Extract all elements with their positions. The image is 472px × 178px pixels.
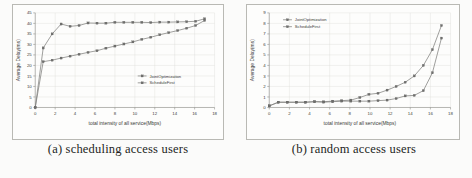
svg-text:6: 6 — [328, 111, 331, 116]
svg-text:JointOptimization: JointOptimization — [150, 74, 182, 79]
svg-text:8: 8 — [349, 111, 352, 116]
chart-a-svg: 024681012141618051015202530354045total i… — [13, 5, 223, 139]
svg-text:7: 7 — [263, 31, 266, 36]
svg-text:4: 4 — [263, 63, 266, 68]
svg-text:2: 2 — [54, 111, 57, 116]
svg-text:3: 3 — [263, 74, 266, 79]
svg-text:4: 4 — [74, 111, 77, 116]
svg-text:6: 6 — [94, 111, 97, 116]
svg-text:12: 12 — [152, 111, 157, 116]
svg-text:30: 30 — [27, 42, 32, 47]
svg-text:10: 10 — [368, 111, 373, 116]
svg-text:15: 15 — [27, 74, 32, 79]
chart-frame-a: 024681012141618051015202530354045total i… — [12, 4, 224, 140]
svg-text:14: 14 — [408, 111, 413, 116]
svg-text:16: 16 — [192, 111, 197, 116]
svg-text:35: 35 — [27, 31, 32, 36]
svg-text:0: 0 — [268, 111, 271, 116]
figure-sheet: 024681012141618051015202530354045total i… — [0, 0, 472, 178]
svg-text:1: 1 — [263, 95, 266, 100]
svg-text:6: 6 — [263, 42, 266, 47]
svg-text:16: 16 — [428, 111, 433, 116]
svg-text:2: 2 — [263, 84, 266, 89]
caption-a: (a) scheduling access users — [0, 142, 236, 157]
svg-text:20: 20 — [27, 63, 32, 68]
svg-text:5: 5 — [29, 95, 32, 100]
svg-text:0: 0 — [263, 105, 266, 110]
svg-text:18: 18 — [212, 111, 217, 116]
svg-text:ScheduleFirst: ScheduleFirst — [150, 80, 176, 85]
svg-text:40: 40 — [27, 21, 32, 26]
svg-text:5: 5 — [263, 52, 266, 57]
chart-frame-b: 0246810121416180123456789total intensity… — [246, 4, 460, 140]
caption-b: (b) random access users — [236, 142, 472, 157]
svg-text:25: 25 — [27, 52, 32, 57]
panel-b: 0246810121416180123456789total intensity… — [236, 0, 472, 178]
chart-a: 024681012141618051015202530354045total i… — [13, 5, 223, 139]
svg-text:45: 45 — [27, 10, 32, 15]
svg-text:14: 14 — [172, 111, 177, 116]
svg-text:0: 0 — [29, 105, 32, 110]
svg-text:0: 0 — [34, 111, 37, 116]
svg-text:2: 2 — [288, 111, 291, 116]
svg-text:total intensity of all service: total intensity of all service(Mbps) — [89, 121, 162, 126]
svg-text:total intensity of all service: total intensity of all service(Mbps) — [324, 121, 397, 126]
panel-a: 024681012141618051015202530354045total i… — [0, 0, 236, 178]
svg-text:10: 10 — [132, 111, 137, 116]
chart-b: 0246810121416180123456789total intensity… — [247, 5, 459, 139]
svg-text:Average Delay(ms): Average Delay(ms) — [16, 39, 21, 81]
svg-text:4: 4 — [308, 111, 311, 116]
svg-text:12: 12 — [388, 111, 393, 116]
svg-text:8: 8 — [263, 21, 266, 26]
chart-b-svg: 0246810121416180123456789total intensity… — [247, 5, 459, 139]
svg-text:10: 10 — [27, 84, 32, 89]
svg-text:JointOptimization: JointOptimization — [295, 17, 327, 22]
svg-text:Average Delay(ms): Average Delay(ms) — [250, 39, 255, 81]
svg-text:9: 9 — [263, 10, 266, 15]
svg-text:18: 18 — [448, 111, 453, 116]
svg-text:ScheduleFirst: ScheduleFirst — [295, 24, 321, 29]
svg-text:8: 8 — [114, 111, 117, 116]
